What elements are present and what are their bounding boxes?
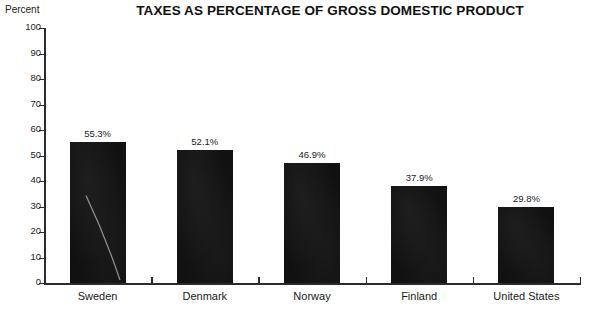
x-axis-tick-mark	[258, 277, 259, 285]
y-axis-label: Percent	[5, 4, 39, 15]
y-axis-tick-label: 90	[30, 47, 41, 58]
chart-title: TAXES AS PERCENTAGE OF GROSS DOMESTIC PR…	[80, 3, 580, 18]
bar	[498, 207, 554, 283]
y-axis-tick-label: 10	[30, 251, 41, 262]
bar	[177, 150, 233, 283]
bar	[284, 163, 340, 283]
y-axis-tick-label: 40	[30, 174, 41, 185]
bar-texture	[177, 150, 233, 283]
bar	[70, 142, 126, 283]
x-axis-tick-mark	[366, 277, 367, 285]
bar-texture	[498, 207, 554, 283]
plot-area: 0102030405060708090100 55.3%52.1%46.9%37…	[44, 28, 580, 283]
bar-texture	[391, 186, 447, 283]
bar	[391, 186, 447, 283]
y-axis-line	[44, 28, 46, 283]
y-axis-tick-label: 70	[30, 98, 41, 109]
y-axis-tick-label: 50	[30, 149, 41, 160]
x-axis-category-label: Finland	[359, 290, 479, 302]
y-axis-tick-label: 80	[30, 72, 41, 83]
bar-texture	[284, 163, 340, 283]
x-axis-tick-mark	[151, 277, 152, 285]
x-axis-tick-mark	[473, 277, 474, 285]
y-axis-tick-label: 20	[30, 225, 41, 236]
bar-value-label: 55.3%	[58, 128, 138, 139]
x-axis-category-label: Sweden	[38, 290, 158, 302]
y-axis-tick-label: 30	[30, 200, 41, 211]
x-axis-category-label: Denmark	[145, 290, 265, 302]
y-axis-tick-label: 100	[25, 21, 41, 32]
bar-value-label: 52.1%	[165, 136, 245, 147]
y-axis-tick-label: 60	[30, 123, 41, 134]
bar-value-label: 29.8%	[486, 193, 566, 204]
bar-chart: TAXES AS PERCENTAGE OF GROSS DOMESTIC PR…	[0, 0, 590, 311]
x-axis-tick-mark	[580, 277, 581, 285]
bar-value-label: 37.9%	[379, 172, 459, 183]
y-axis-tick-label: 0	[36, 276, 41, 287]
x-axis-category-label: United States	[466, 290, 586, 302]
scan-artifact-line	[70, 142, 126, 283]
x-axis-category-label: Norway	[252, 290, 372, 302]
bar-value-label: 46.9%	[272, 149, 352, 160]
x-axis-line	[44, 283, 580, 285]
